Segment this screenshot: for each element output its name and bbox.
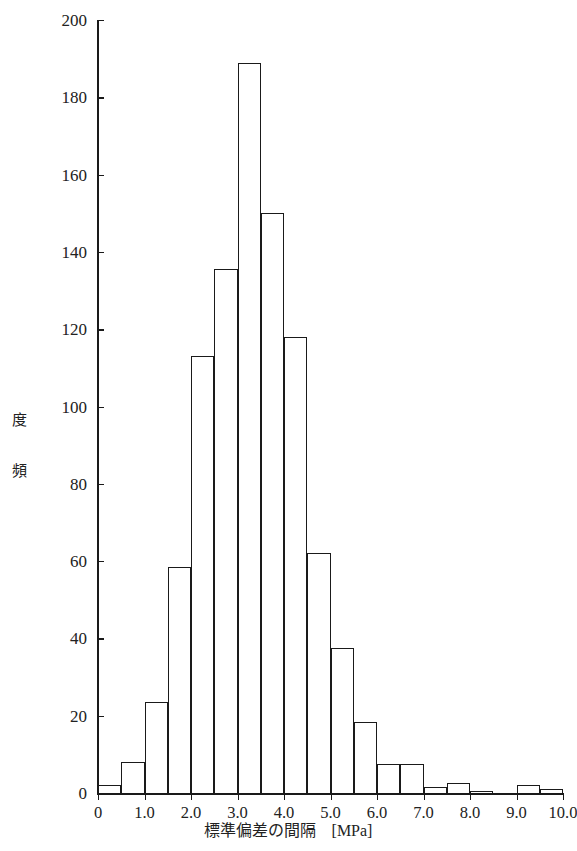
y-axis-tick	[98, 97, 104, 98]
y-axis-label-char-2: 頻	[2, 463, 36, 480]
histogram-bar	[214, 269, 237, 793]
y-axis-tick-label: 160	[62, 166, 88, 183]
x-axis-tick-label: 8.0	[460, 804, 481, 822]
y-axis-tick-label: 180	[62, 89, 88, 106]
y-axis-tick	[98, 175, 104, 176]
x-axis-tick	[517, 793, 518, 800]
x-axis-tick	[284, 793, 285, 800]
histogram-bar	[354, 722, 377, 794]
y-axis-tick	[98, 20, 104, 21]
x-axis-tick-label: 2.0	[181, 804, 202, 822]
y-axis-tick-label: 60	[70, 553, 87, 570]
x-axis-tick	[470, 793, 471, 800]
y-axis-tick	[98, 407, 104, 408]
histogram-bar	[331, 648, 354, 793]
histogram-bar	[377, 764, 400, 793]
histogram-bar	[261, 213, 284, 793]
x-axis-tick	[238, 793, 239, 800]
x-axis-tick	[191, 793, 192, 800]
x-axis-tick-label: 3.0	[227, 804, 248, 822]
x-axis-tick	[331, 793, 332, 800]
y-axis-tick	[98, 252, 104, 253]
y-axis-tick-label: 140	[62, 243, 88, 260]
x-axis-tick-label: 7.0	[413, 804, 434, 822]
histogram-bar	[517, 785, 540, 793]
y-axis-tick-label: 0	[79, 785, 88, 802]
histogram-bar	[168, 567, 191, 793]
histogram-bar	[145, 702, 168, 793]
x-axis-label: 標準偏差の間隔 [MPa]	[0, 821, 576, 841]
y-axis-tick-label: 120	[62, 321, 88, 338]
histogram-bar	[447, 783, 470, 793]
histogram-bar	[307, 553, 330, 793]
x-axis-tick	[424, 793, 425, 800]
x-axis-tick	[145, 793, 146, 800]
y-axis-tick-label: 100	[62, 398, 88, 415]
y-axis-tick	[98, 716, 104, 717]
histogram-bar	[400, 764, 423, 793]
y-axis-label-char-1: 度	[2, 412, 36, 429]
histogram-bar	[470, 791, 493, 793]
y-axis-label: 度 頻	[2, 378, 36, 514]
histogram-bar	[238, 63, 261, 793]
y-axis-tick	[98, 484, 104, 485]
histogram-bar	[424, 787, 447, 793]
x-axis-tick-label: 10.0	[549, 804, 577, 822]
histogram-bar	[540, 789, 563, 793]
x-axis-tick	[563, 793, 564, 800]
x-axis-tick-label: 5.0	[320, 804, 341, 822]
x-axis-tick-label: 0	[94, 804, 102, 822]
x-axis-tick-label: 6.0	[367, 804, 388, 822]
plot-area: 020406080100120140160180200 01.02.03.04.…	[98, 20, 563, 793]
x-axis-tick	[377, 793, 378, 800]
y-axis-tick-label: 20	[70, 707, 87, 724]
y-axis-tick-label: 80	[70, 475, 87, 492]
histogram-bar	[191, 356, 214, 793]
histogram-bar	[284, 337, 307, 793]
x-axis-tick-label: 4.0	[274, 804, 295, 822]
y-axis-tick	[98, 638, 104, 639]
histogram-bar	[121, 762, 144, 793]
y-axis-tick	[98, 561, 104, 562]
y-axis-tick	[98, 329, 104, 330]
x-axis-tick-label: 1.0	[134, 804, 155, 822]
y-axis-tick-label: 200	[62, 12, 88, 29]
x-axis-tick-label: 9.0	[506, 804, 527, 822]
x-axis-tick	[98, 793, 99, 800]
histogram-bar	[98, 785, 121, 793]
y-axis-tick-label: 40	[70, 630, 87, 647]
